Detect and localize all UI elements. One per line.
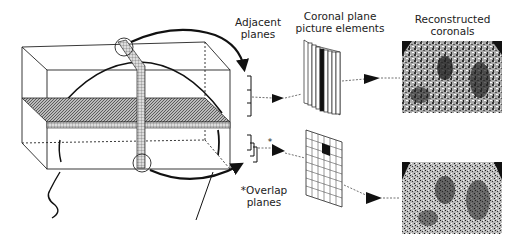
overlap-line1: *Overlap — [232, 184, 296, 196]
adjacent-planes-label: Adjacent planes — [228, 16, 288, 40]
reconstructed-coronal-bottom — [402, 162, 502, 234]
reconstructed-coronals-label: Reconstructed coronals — [405, 13, 500, 37]
reconstructed-line1: Reconstructed — [405, 13, 500, 25]
overlap-planes-label: *Overlap planes — [232, 184, 296, 208]
arrow-to-coronal-elements — [272, 94, 284, 103]
adjacent-planes-bracket — [247, 76, 251, 116]
reconstructed-line2: coronals — [405, 25, 500, 37]
coronal-plane-line1: Coronal plane — [290, 10, 390, 22]
arrow-to-reconstructed-bottom — [366, 192, 382, 204]
grid-picture-elements — [306, 130, 342, 207]
transverse-plane — [22, 98, 230, 122]
bottom-curved-arrow — [150, 165, 240, 179]
coronal-plane-label: Coronal plane picture elements — [290, 10, 390, 34]
coronal-plane-line2: picture elements — [290, 22, 390, 34]
overlap-line2: planes — [232, 196, 296, 208]
adjacent-planes-line1: Adjacent — [228, 16, 288, 28]
coronal-strips — [304, 40, 340, 115]
overlap-asterisk: * — [266, 136, 274, 148]
arrow-to-reconstructed-top — [364, 74, 380, 84]
overlap-planes-bracket — [247, 135, 257, 162]
reconstructed-coronal-top — [402, 41, 502, 113]
squiggle-line — [48, 172, 60, 218]
adjacent-planes-line2: planes — [228, 28, 288, 40]
